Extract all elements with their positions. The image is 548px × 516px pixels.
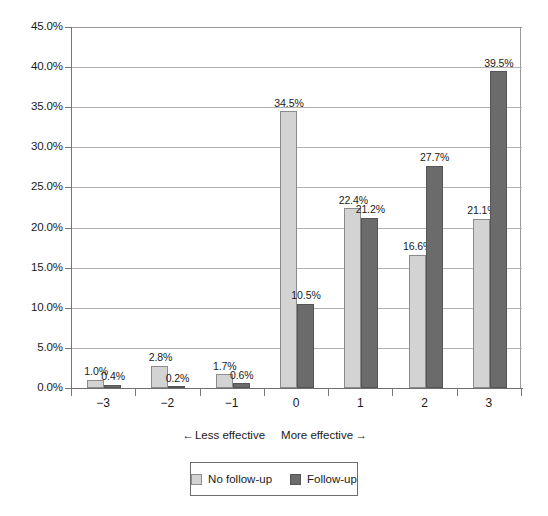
y-tick-label: 40.0% bbox=[5, 61, 63, 73]
y-tick-mark bbox=[65, 228, 71, 229]
bar-value-label: 0.4% bbox=[93, 371, 133, 382]
y-tick-label: 20.0% bbox=[5, 222, 63, 234]
x-tick-mark bbox=[200, 388, 201, 396]
bar-value-label: 34.5% bbox=[269, 98, 309, 109]
y-tick-mark bbox=[65, 388, 71, 389]
y-tick-mark bbox=[65, 67, 71, 68]
bar-no-follow-up[interactable] bbox=[473, 219, 490, 388]
bar-group: 22.4%21.2% bbox=[344, 27, 378, 388]
x-tick-label: −2 bbox=[142, 396, 192, 410]
y-tick-mark bbox=[65, 107, 71, 108]
bar-group: 34.5%10.5% bbox=[280, 27, 314, 388]
right-arrow-icon: → bbox=[355, 429, 366, 441]
y-tick-label: 10.0% bbox=[5, 302, 63, 314]
bar-value-label: 2.8% bbox=[140, 352, 180, 363]
less-effective-annotation: ← Less effective bbox=[182, 428, 265, 442]
bar-group: 21.1%39.5% bbox=[473, 27, 507, 388]
bar-group: 1.0%0.4% bbox=[87, 27, 121, 388]
bar-follow-up[interactable] bbox=[297, 304, 314, 388]
x-tick-mark bbox=[521, 388, 522, 396]
x-tick-mark bbox=[264, 388, 265, 396]
legend-label: No follow-up bbox=[208, 473, 272, 485]
bar-value-label: 39.5% bbox=[479, 58, 519, 69]
y-tick-label: 0.0% bbox=[5, 382, 63, 394]
x-tick-mark bbox=[457, 388, 458, 396]
x-tick-label: −3 bbox=[78, 396, 128, 410]
bar-chart-figure: 0.0%5.0%10.0%15.0%20.0%25.0%30.0%35.0%40… bbox=[0, 0, 548, 516]
y-tick-label: 15.0% bbox=[5, 262, 63, 274]
dark-gray-swatch-icon bbox=[290, 474, 301, 485]
y-tick-mark bbox=[65, 268, 71, 269]
bar-no-follow-up[interactable] bbox=[280, 111, 297, 388]
effectiveness-annotation: ← Less effectiveMore effective → bbox=[0, 428, 548, 442]
y-tick-label: 35.0% bbox=[5, 101, 63, 113]
legend-entry[interactable]: No follow-up bbox=[191, 473, 272, 485]
bar-follow-up[interactable] bbox=[361, 218, 378, 388]
y-tick-label: 5.0% bbox=[5, 342, 63, 354]
x-tick-mark bbox=[328, 388, 329, 396]
bar-value-label: 27.7% bbox=[415, 152, 455, 163]
x-tick-mark bbox=[71, 388, 72, 396]
x-tick-label: 2 bbox=[400, 396, 450, 410]
bar-group: 16.6%27.7% bbox=[409, 27, 443, 388]
x-tick-label: 3 bbox=[464, 396, 514, 410]
bar-value-label: 21.2% bbox=[350, 204, 390, 215]
x-tick-label: −1 bbox=[207, 396, 257, 410]
left-arrow-icon: ← bbox=[182, 429, 193, 441]
bar-value-label: 10.5% bbox=[286, 290, 326, 301]
x-tick-label: 1 bbox=[335, 396, 385, 410]
legend-label: Follow-up bbox=[307, 473, 357, 485]
y-tick-label: 25.0% bbox=[5, 181, 63, 193]
legend-entry[interactable]: Follow-up bbox=[290, 473, 357, 485]
y-tick-mark bbox=[65, 147, 71, 148]
y-tick-mark bbox=[65, 187, 71, 188]
bar-group: 2.8%0.2% bbox=[151, 27, 185, 388]
x-tick-mark bbox=[392, 388, 393, 396]
bar-value-label: 0.2% bbox=[157, 373, 197, 384]
y-tick-mark bbox=[65, 348, 71, 349]
legend: No follow-upFollow-up bbox=[190, 462, 358, 496]
less-effective-label: Less effective bbox=[195, 429, 265, 441]
x-tick-label: 0 bbox=[271, 396, 321, 410]
x-tick-mark bbox=[135, 388, 136, 396]
more-effective-label: More effective bbox=[281, 429, 353, 441]
light-gray-swatch-icon bbox=[191, 474, 202, 485]
bar-follow-up[interactable] bbox=[490, 71, 507, 388]
bar-no-follow-up[interactable] bbox=[344, 208, 361, 388]
bar-group: 1.7%0.6% bbox=[216, 27, 250, 388]
bar-value-label: 0.6% bbox=[222, 370, 262, 381]
y-tick-label: 45.0% bbox=[5, 21, 63, 33]
plot-area: 1.0%0.4%2.8%0.2%1.7%0.6%34.5%10.5%22.4%2… bbox=[71, 27, 521, 388]
y-tick-mark bbox=[65, 27, 71, 28]
y-tick-label: 30.0% bbox=[5, 141, 63, 153]
bar-follow-up[interactable] bbox=[426, 166, 443, 388]
more-effective-annotation: More effective → bbox=[281, 428, 366, 442]
y-tick-mark bbox=[65, 308, 71, 309]
bar-no-follow-up[interactable] bbox=[409, 255, 426, 388]
